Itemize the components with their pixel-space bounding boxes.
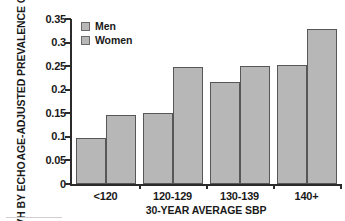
x-axis-line — [70, 184, 340, 186]
y-axis-title-line-1: AGE-ADJUSTED PREVALENCE OF — [15, 0, 27, 160]
x-axis-tick-label: 130-139 — [220, 190, 259, 203]
x-axis-tick-mark — [340, 184, 342, 189]
bar-men-2 — [210, 82, 240, 184]
legend-item-men: Men — [81, 20, 132, 32]
x-axis-tick-label: 140+ — [295, 190, 319, 203]
x-axis-tick-label: 120-129 — [153, 190, 192, 203]
x-axis-tick-mark — [206, 184, 208, 189]
scan-artifact-line — [6, 217, 62, 218]
y-axis-tick-label: 0.3 — [28, 37, 66, 48]
bar-women-3 — [307, 29, 337, 184]
chart-legend: MenWomen — [81, 20, 132, 46]
y-axis-tick-label: 0.05 — [28, 155, 66, 166]
y-axis-tick-labels: 00.050.10.150.20.250.30.35 — [28, 14, 66, 190]
bar-men-3 — [277, 65, 307, 184]
y-axis-tick-mark — [65, 65, 71, 67]
legend-swatch-icon — [81, 22, 90, 31]
y-axis-tick-label: 0.35 — [28, 14, 66, 25]
y-axis-tick-mark — [65, 159, 71, 161]
bar-men-0 — [76, 138, 106, 184]
y-axis-tick-mark — [65, 18, 71, 20]
bar-chart-figure: AGE-ADJUSTED PREVALENCE OF LVH BY ECHO 0… — [0, 0, 345, 221]
y-axis-tick-mark — [65, 112, 71, 114]
x-axis-tick-labels: <120120-129130-139140+ — [72, 190, 340, 204]
bar-women-0 — [106, 115, 136, 184]
bar-women-2 — [240, 66, 270, 184]
y-axis-tick-mark — [65, 89, 71, 91]
x-axis-tick-label: <120 — [94, 190, 118, 203]
legend-label: Men — [95, 21, 116, 32]
x-axis-tick-mark — [139, 184, 141, 189]
legend-item-women: Women — [81, 34, 132, 46]
y-axis-tick-label: 0.2 — [28, 84, 66, 95]
y-axis-tick-label: 0 — [28, 179, 66, 190]
x-axis-title: 30-YEAR AVERAGE SBP — [72, 204, 340, 216]
y-axis-tick-mark — [65, 42, 71, 44]
y-axis-title-line-2: LVH BY ECHO — [15, 161, 27, 221]
y-axis-tick-mark — [65, 136, 71, 138]
bar-men-1 — [143, 113, 173, 184]
y-axis-tick-label: 0.15 — [28, 108, 66, 119]
legend-swatch-icon — [81, 36, 90, 45]
bar-women-1 — [173, 67, 203, 184]
y-axis-tick-mark — [65, 183, 71, 185]
y-axis-tick-label: 0.25 — [28, 61, 66, 72]
x-axis-tick-mark — [273, 184, 275, 189]
legend-label: Women — [95, 35, 132, 46]
y-axis-tick-label: 0.1 — [28, 131, 66, 142]
